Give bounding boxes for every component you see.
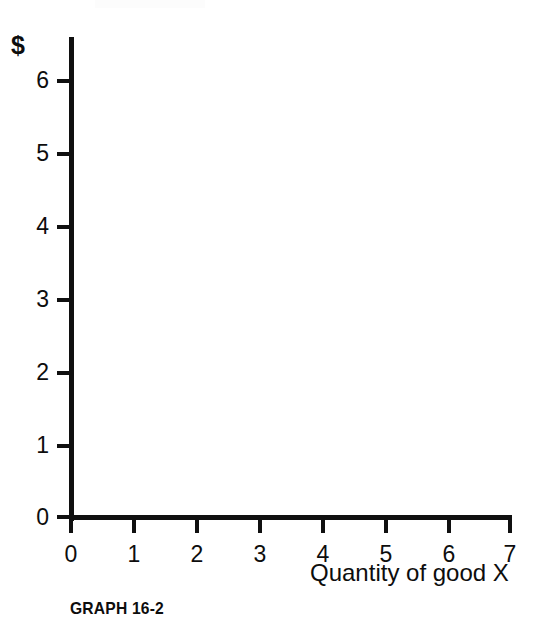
plot-area (74, 37, 512, 515)
y-tick-label-5: 5 (23, 142, 49, 165)
y-tick-3 (57, 298, 72, 302)
y-tick-label-0: 0 (23, 506, 49, 529)
y-tick-label-6: 6 (23, 69, 49, 92)
x-axis-title: Quantity of good X (310, 561, 509, 585)
y-tick-label-1: 1 (23, 434, 49, 457)
x-tick-label-1: 1 (119, 543, 149, 566)
figure-caption: GRAPH 16-2 (70, 600, 164, 617)
x-tick-0 (69, 519, 73, 533)
x-tick-3 (258, 519, 262, 533)
y-tick-1 (57, 444, 72, 448)
x-tick-label-3: 3 (245, 543, 275, 566)
y-tick-label-2: 2 (23, 361, 49, 384)
x-tick-6 (447, 519, 451, 533)
y-tick-label-4: 4 (23, 215, 49, 238)
y-tick-4 (57, 225, 72, 229)
x-tick-label-0: 0 (56, 543, 86, 566)
y-tick-2 (57, 371, 72, 375)
y-tick-label-3: 3 (23, 288, 49, 311)
x-tick-1 (132, 519, 136, 533)
x-tick-5 (384, 519, 388, 533)
x-tick-2 (195, 519, 199, 533)
x-tick-label-2: 2 (182, 543, 212, 566)
y-tick-6 (57, 79, 72, 83)
scan-artifact (95, 0, 205, 8)
x-tick-4 (321, 519, 325, 533)
graph-figure: $ 6 5 4 3 2 1 0 0 1 2 3 4 5 6 7 Quantity… (0, 0, 541, 627)
x-tick-7 (508, 519, 512, 533)
y-tick-5 (57, 152, 72, 156)
y-axis-title: $ (11, 33, 25, 58)
